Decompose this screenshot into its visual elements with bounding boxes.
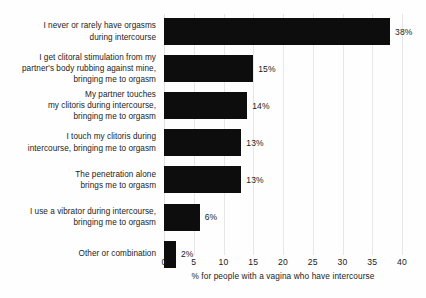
bar-row: 14% (164, 92, 402, 119)
bar-value-label: 14% (252, 101, 269, 111)
category-label-line: during intercourse (0, 32, 156, 43)
bar (164, 129, 241, 156)
category-label-line: intercourse, bringing me to orgasm (0, 143, 156, 154)
category-label-line: My partner touches (0, 89, 156, 100)
category-label-line: bringing me to orgasm (0, 74, 156, 85)
category-label: I never or rarely have orgasmsduring int… (0, 20, 156, 43)
bar-value-label: 6% (205, 212, 218, 222)
x-tick-label: 10 (219, 257, 229, 267)
category-label-line: Other or combination (0, 248, 156, 259)
category-label-line: I get clitoral stimulation from my (0, 52, 156, 63)
bar-row: 13% (164, 129, 402, 156)
bar-row: 38% (164, 18, 402, 45)
category-label-line: The penetration alone (0, 169, 156, 180)
bar (164, 166, 241, 193)
bar-series: 38%15%14%13%13%6%2% (164, 14, 402, 255)
category-label-line: brings me to orgasm (0, 180, 156, 191)
category-label: The penetration alonebrings me to orgasm (0, 169, 156, 192)
bar (164, 204, 200, 231)
bar (164, 55, 253, 82)
x-axis-title: % for people with a vagina who have inte… (164, 271, 402, 281)
bar-value-label: 13% (246, 138, 263, 148)
x-tick-label: 30 (338, 257, 348, 267)
category-label-line: I touch my clitoris during (0, 131, 156, 142)
x-tick-label: 0 (162, 257, 167, 267)
category-label-line: partner's body rubbing against mine, (0, 63, 156, 74)
x-tick-label: 15 (248, 257, 258, 267)
x-tick-label: 20 (278, 257, 288, 267)
category-axis-labels: I never or rarely have orgasmsduring int… (0, 14, 160, 255)
category-label-line: bringing me to orgasm (0, 111, 156, 122)
bar-chart: 38%15%14%13%13%6%2% I never or rarely ha… (0, 0, 426, 298)
category-label: My partner touchesmy clitoris during int… (0, 89, 156, 123)
bar-value-label: 38% (395, 27, 412, 37)
x-tick-label: 5 (191, 257, 196, 267)
category-label-line: bringing me to orgasm (0, 217, 156, 228)
bar-row: 15% (164, 55, 402, 82)
category-label: Other or combination (0, 248, 156, 259)
category-label: I get clitoral stimulation from mypartne… (0, 52, 156, 86)
category-label: I use a vibrator during intercourse,brin… (0, 206, 156, 229)
x-tick-label: 40 (397, 257, 407, 267)
bar (164, 92, 247, 119)
x-tick-label: 25 (308, 257, 318, 267)
gridline-40 (402, 14, 403, 255)
category-label-line: I never or rarely have orgasms (0, 20, 156, 31)
bar-row: 6% (164, 204, 402, 231)
category-label-line: my clitoris during intercourse, (0, 100, 156, 111)
bar-value-label: 13% (246, 175, 263, 185)
x-axis-ticks: 0510152025303540 (164, 255, 402, 269)
bar-value-label: 15% (258, 64, 275, 74)
category-label: I touch my clitoris duringintercourse, b… (0, 131, 156, 154)
category-label-line: I use a vibrator during intercourse, (0, 206, 156, 217)
bar (164, 18, 390, 45)
x-tick-label: 35 (367, 257, 377, 267)
bar-row: 13% (164, 166, 402, 193)
